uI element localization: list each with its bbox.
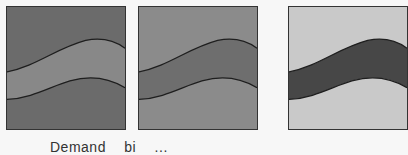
wavy-band-illustration xyxy=(289,7,407,129)
wavy-band-illustration xyxy=(139,7,257,129)
figure-panel-light-background xyxy=(288,6,408,130)
caption-word: ... xyxy=(155,139,168,155)
caption-word: Demand xyxy=(50,139,106,155)
figure-panel-dark-background xyxy=(6,6,126,130)
figure-panel-medium-background xyxy=(138,6,258,130)
caption-word: bi xyxy=(124,139,136,155)
wavy-band-illustration xyxy=(7,7,125,129)
figure-caption-cropped: Demand bi ... xyxy=(0,139,335,155)
